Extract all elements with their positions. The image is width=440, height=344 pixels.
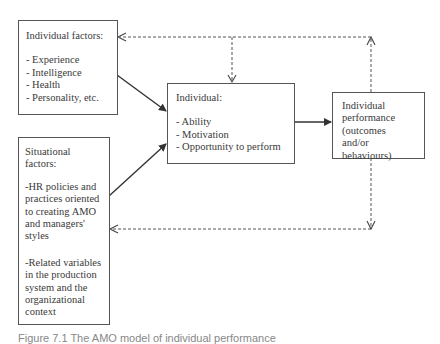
situational-factors-box: Situational factors: -HR policies and pr… (18, 137, 110, 325)
figure-caption: Figure 7.1 The AMO model of individual p… (18, 332, 276, 344)
situational-item: -Related variables in the production sys… (25, 257, 103, 319)
factor-item: - Health (26, 79, 110, 91)
performance-box: Individual performance (outcomes and/or … (332, 92, 425, 159)
amo-item: - Opportunity to perform (176, 141, 286, 153)
situational-factors-title: Situational factors: (25, 146, 103, 171)
factor-item: - Personality, etc. (26, 92, 110, 104)
individual-factors-title: Individual factors: (26, 30, 110, 42)
amo-item: - Motivation (176, 129, 286, 141)
arrow-situational-to-individual (109, 144, 166, 196)
amo-item: - Ability (176, 116, 286, 128)
arrow-individual-factors-to-individual (117, 75, 166, 111)
factor-item: - Experience (26, 54, 110, 66)
situational-item: -HR policies and practices oriented to c… (25, 181, 103, 243)
individual-factors-box: Individual factors: - Experience - Intel… (18, 20, 118, 115)
individual-title: Individual: (176, 92, 286, 104)
factor-item: - Intelligence (26, 67, 110, 79)
individual-box: Individual: - Ability - Motivation - Opp… (167, 83, 295, 164)
performance-title: Individual performance (outcomes and/or … (342, 100, 415, 162)
